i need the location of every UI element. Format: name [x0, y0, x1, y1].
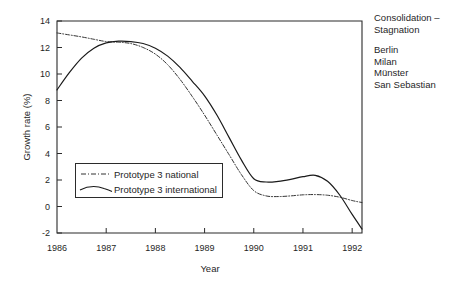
series-line-international [57, 41, 362, 229]
annotation-city-munster: Münster [374, 67, 463, 79]
y-tick-label: 4 [45, 149, 50, 159]
y-tick-label: 6 [45, 122, 50, 132]
x-axis-ticks: 1986198719881989199019911992 [47, 228, 362, 253]
legend-label-international: Prototype 3 international [114, 184, 217, 195]
figure: -202468101214 19861987198819891990199119… [0, 0, 463, 295]
annotation-city-berlin: Berlin [374, 44, 463, 56]
plot-frame [57, 21, 362, 233]
annotation-heading-line2: Stagnation [374, 24, 463, 36]
y-tick-label: 0 [45, 202, 50, 212]
legend-label-national: Prototype 3 national [114, 169, 199, 180]
x-tick-label: 1989 [195, 243, 215, 253]
annotation-city-san-sebastian: San Sebastian [374, 79, 463, 91]
y-tick-label: 12 [40, 43, 50, 53]
x-tick-label: 1986 [47, 243, 67, 253]
annotation-heading-line1: Consolidation – [374, 12, 463, 24]
data-series-group [57, 33, 362, 229]
y-tick-label: -2 [42, 228, 50, 238]
y-axis-ticks: -202468101214 [40, 16, 62, 238]
y-tick-label: 2 [45, 175, 50, 185]
x-axis-title: Year [200, 263, 219, 274]
annotation-city-milan: Milan [374, 56, 463, 68]
annotation-block: Consolidation – Stagnation Berlin Milan … [374, 12, 463, 90]
x-tick-label: 1991 [293, 243, 313, 253]
chart-legend[interactable]: Prototype 3 national Prototype 3 interna… [76, 164, 223, 198]
y-tick-label: 14 [40, 16, 50, 26]
x-tick-label: 1988 [145, 243, 165, 253]
x-tick-label: 1987 [96, 243, 116, 253]
y-tick-label: 8 [45, 96, 50, 106]
x-tick-label: 1990 [244, 243, 264, 253]
y-tick-label: 10 [40, 69, 50, 79]
y-axis-title: Growth rate (%) [21, 93, 32, 160]
x-tick-label: 1992 [342, 243, 362, 253]
